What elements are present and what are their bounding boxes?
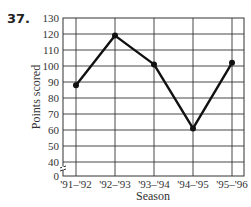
line-chart: 0405060708090100110120130 '91–'92'92–'93… <box>0 0 251 207</box>
y-tick-label: 40 <box>48 156 60 168</box>
y-tick-label: 50 <box>48 140 60 152</box>
data-point <box>151 61 157 67</box>
y-tick-label: 100 <box>43 60 60 72</box>
x-tick-label: '94–'95 <box>177 178 209 190</box>
x-tick-label: '95–'96 <box>216 178 248 190</box>
y-tick-label: 110 <box>43 44 60 56</box>
y-tick-label: 120 <box>43 28 60 40</box>
data-point <box>229 60 235 66</box>
data-point <box>112 33 118 39</box>
x-tick-label: '91–'92 <box>60 178 91 190</box>
data-point <box>190 125 196 131</box>
y-tick-label: 0 <box>54 170 60 182</box>
grid <box>60 18 244 176</box>
y-tick-label: 70 <box>48 108 60 120</box>
x-tick-label: '92–'93 <box>99 178 131 190</box>
y-tick-label: 130 <box>43 12 60 24</box>
x-axis-label: Season <box>136 189 170 203</box>
axis-break-gap <box>62 167 64 170</box>
data-point <box>73 82 79 88</box>
plot-frame <box>63 18 244 176</box>
y-tick-labels: 0405060708090100110120130 <box>43 12 60 182</box>
y-tick-label: 60 <box>48 124 60 136</box>
y-axis-label: Points scored <box>29 65 43 129</box>
y-tick-label: 80 <box>48 92 60 104</box>
y-tick-label: 90 <box>48 76 60 88</box>
